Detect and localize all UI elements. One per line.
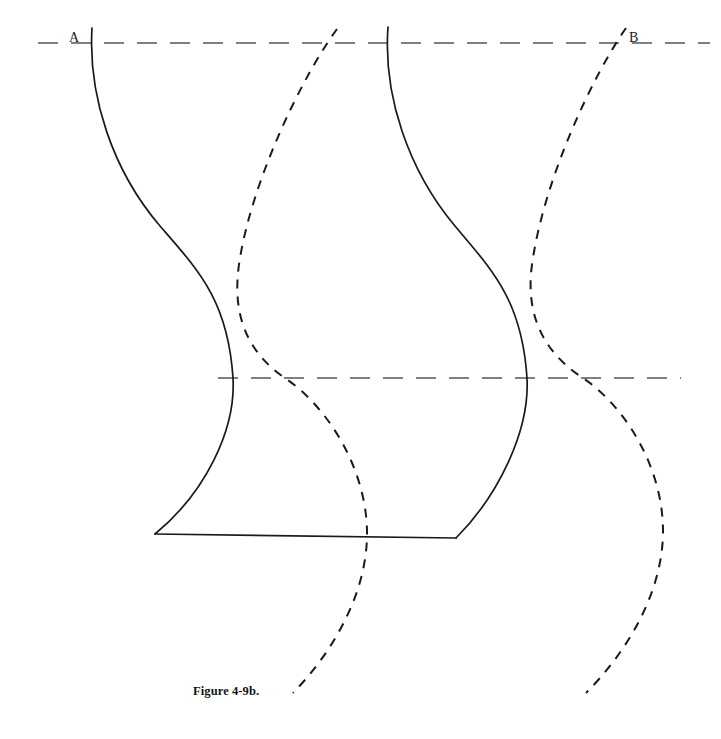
base-line bbox=[155, 534, 456, 538]
point-label-b: B bbox=[629, 31, 638, 45]
figure-drawing bbox=[0, 0, 721, 739]
figure-canvas: A B Figure 4-9b. bbox=[0, 0, 721, 739]
right-solid-curve bbox=[387, 27, 527, 538]
left-dashed-curve bbox=[237, 29, 367, 693]
right-dashed-curve bbox=[531, 28, 663, 693]
point-label-a: A bbox=[69, 31, 79, 45]
left-solid-curve bbox=[92, 28, 234, 534]
figure-caption: Figure 4-9b. bbox=[193, 684, 259, 699]
